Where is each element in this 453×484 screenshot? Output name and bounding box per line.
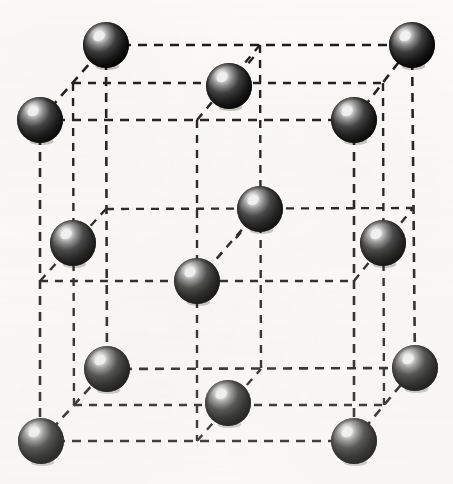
atom-rim-face-center-bottom [205,380,251,426]
atom-rim-face-center-back [237,186,283,232]
atom-corner-back-top-right: Corner atom, back top right [389,22,435,70]
atom-face-center-bottom: Face-center atom, bottom face [205,380,251,428]
atom-corner-back-top-left: Corner atom, back top left [83,22,129,70]
cell-edge-back-left [106,45,107,369]
atom-rim-corner-front-top-left [17,97,63,143]
lattice-diagram: Corner atom, front top leftCorner atom, … [0,0,453,484]
atom-rim-face-center-right [360,220,406,266]
atom-rim-face-center-front [174,258,220,304]
atom-rim-face-center-top [206,63,252,109]
atom-face-center-back: Face-center atom, back face [237,186,283,234]
atom-rim-face-center-left [50,220,96,266]
atom-corner-back-bottom-left: Corner atom, back bottom left [84,346,130,394]
atom-rim-corner-front-bottom-left [18,418,64,464]
atom-face-center-right: Face-center atom, right face [360,220,406,268]
atom-rim-corner-front-top-right [331,97,377,143]
atom-rim-corner-front-bottom-right [331,418,377,464]
atom-corner-front-top-right: Corner atom, front top right [331,97,377,145]
atom-corner-front-top-left: Corner atom, front top left [17,97,63,145]
cell-edge-back-bottom [107,368,415,369]
atom-corner-front-bottom-left: Corner atom, front bottom left [18,418,64,466]
atom-face-center-front: Face-center atom, front face [174,258,220,306]
atom-face-center-top: Face-center atom, top face [206,63,252,111]
atom-corner-front-bottom-right: Corner atom, front bottom right [331,418,377,466]
atom-face-center-left: Face-center atom, left face [50,220,96,268]
crystal-lattice-figure: Corner atom, front top leftCorner atom, … [0,0,453,484]
atom-rim-corner-back-top-left [83,22,129,68]
atom-rim-corner-back-bottom-right [392,345,438,391]
atom-rim-corner-back-bottom-left [84,346,130,392]
atom-rim-corner-back-top-right [389,22,435,68]
cell-edge-back-right [412,45,415,368]
atoms-layer: Corner atom, front top leftCorner atom, … [17,22,438,466]
